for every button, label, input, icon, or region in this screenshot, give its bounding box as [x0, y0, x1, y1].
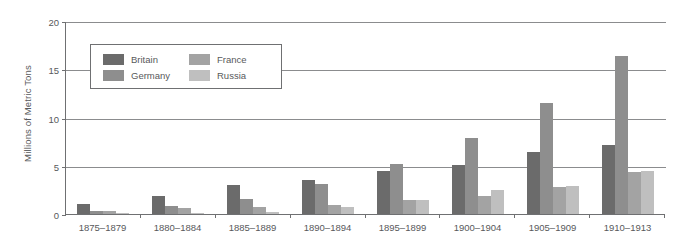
y-axis-tick-label: 10 [26, 113, 59, 124]
legend-label: Germany [131, 70, 170, 81]
legend-swatch-germany [103, 70, 124, 81]
legend-swatch-russia [189, 70, 210, 81]
legend-item-russia: Russia [189, 67, 275, 83]
bar-germany [90, 211, 103, 214]
bar-france [553, 187, 566, 214]
x-axis-tick-mark [290, 214, 291, 218]
legend-label: Britain [131, 54, 158, 65]
legend-item-france: France [189, 51, 275, 67]
y-axis-tick-label: 5 [26, 161, 59, 172]
bar-germany [465, 138, 478, 214]
bar-group [515, 22, 590, 214]
y-axis-tick-mark [62, 215, 66, 216]
y-axis-tick-label: 15 [26, 65, 59, 76]
bar-group [440, 22, 515, 214]
x-axis-tick-mark [514, 214, 515, 218]
bar-germany [315, 184, 328, 214]
bar-chart: Millions of Metric Tons 05101520 1875–18… [0, 0, 674, 249]
bar-france [628, 172, 641, 214]
legend-label: France [217, 54, 247, 65]
bar-germany [240, 199, 253, 214]
bar-germany [615, 56, 628, 214]
y-axis-tick-label: 0 [26, 210, 59, 221]
bar-group [590, 22, 665, 214]
bar-germany [540, 103, 553, 214]
x-axis-tick-label: 1905–1909 [515, 222, 590, 233]
legend-swatch-britain [103, 54, 124, 65]
bar-group [366, 22, 441, 214]
bar-france [478, 196, 491, 214]
bar-russia [266, 212, 279, 214]
bar-russia [191, 213, 204, 214]
bar-group [291, 22, 366, 214]
bar-russia [116, 213, 129, 214]
chart-legend: BritainFranceGermanyRussia [90, 44, 282, 89]
bar-russia [416, 200, 429, 214]
x-axis-tick-label: 1885–1889 [215, 222, 290, 233]
bar-russia [491, 190, 504, 214]
bar-germany [165, 206, 178, 214]
bar-france [328, 205, 341, 214]
legend-swatch-france [189, 54, 210, 65]
y-axis-tick-label: 20 [26, 17, 59, 28]
bar-france [178, 208, 191, 214]
legend-label: Russia [217, 70, 246, 81]
legend-item-germany: Germany [103, 67, 189, 83]
bar-britain [377, 171, 390, 214]
bar-britain [527, 152, 540, 214]
x-axis-tick-mark [589, 214, 590, 218]
bar-britain [152, 196, 165, 214]
bar-britain [602, 145, 615, 214]
x-axis-tick-label: 1875–1879 [65, 222, 140, 233]
bar-russia [566, 186, 579, 214]
bar-britain [302, 180, 315, 214]
bar-britain [77, 204, 90, 214]
x-axis-tick-mark [140, 214, 141, 218]
bar-france [403, 200, 416, 214]
legend-item-britain: Britain [103, 51, 189, 67]
x-axis-tick-mark [215, 214, 216, 218]
bar-russia [341, 207, 354, 214]
x-axis-tick-label: 1910–1913 [590, 222, 665, 233]
x-axis-tick-mark [439, 214, 440, 218]
bar-russia [641, 171, 654, 214]
bar-france [253, 207, 266, 214]
x-axis-tick-label: 1895–1899 [365, 222, 440, 233]
bar-britain [452, 165, 465, 214]
x-axis-tick-label: 1890–1894 [290, 222, 365, 233]
bar-germany [390, 164, 403, 214]
x-axis-labels: 1875–18791880–18841885–18891890–18941895… [65, 222, 665, 233]
x-axis-tick-mark [365, 214, 366, 218]
x-axis-tick-label: 1880–1884 [140, 222, 215, 233]
bar-france [103, 211, 116, 214]
x-axis-tick-label: 1900–1904 [440, 222, 515, 233]
bar-britain [227, 185, 240, 214]
x-axis-tick-mark [664, 214, 665, 218]
